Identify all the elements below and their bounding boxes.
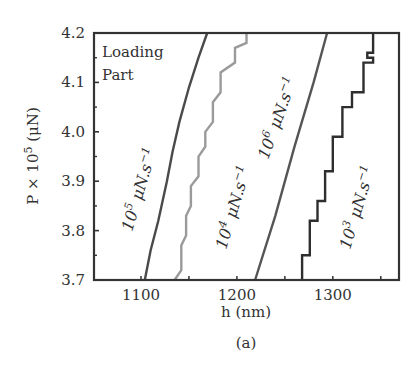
chart-figure: 3.73.83.94.04.14.2 110012001300 h (nm) (…: [0, 0, 419, 373]
y-tick-label: 3.9: [61, 172, 85, 190]
x-tick-labels: 110012001300: [122, 286, 352, 304]
figure-caption: (a): [236, 334, 257, 352]
curve-4: [175, 33, 247, 280]
y-tick-label: 3.8: [61, 222, 85, 240]
y-tick-label: 4.0: [61, 123, 85, 141]
curve-label-3: 103 μN.s−1: [334, 163, 379, 251]
curve-label-4: 104 μN.s−1: [210, 163, 255, 251]
annotation-loading: Loading: [102, 43, 164, 61]
x-tick-label: 1300: [314, 286, 352, 304]
x-tick-label: 1100: [122, 286, 160, 304]
y-tick-label: 4.2: [61, 24, 85, 42]
y-tick-label: 4.1: [61, 73, 85, 91]
annotation-part: Part: [102, 66, 134, 84]
curve-labels: 105 μN.s−1104 μN.s−1106 μN.s−1103 μN.s−1: [116, 74, 379, 251]
x-tick-label: 1200: [218, 286, 256, 304]
y-axis-title: P × 105 (μN): [22, 107, 42, 205]
x-axis-title: h (nm): [221, 303, 271, 321]
y-tick-label: 3.7: [61, 271, 85, 289]
curve-label-5: 105 μN.s−1: [116, 145, 161, 233]
y-tick-labels: 3.73.83.94.04.14.2: [61, 24, 85, 289]
